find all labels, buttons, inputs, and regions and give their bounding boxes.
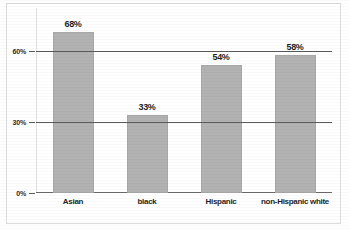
bar-value-label: 58% bbox=[286, 42, 303, 52]
gridline-30 bbox=[36, 122, 332, 123]
y-tick-label: 60% bbox=[13, 47, 26, 54]
bar bbox=[53, 32, 94, 193]
y-tick-mark-0 bbox=[29, 193, 35, 194]
bar bbox=[201, 65, 242, 193]
bar-group: 33% bbox=[127, 8, 168, 193]
bar bbox=[127, 115, 168, 193]
x-axis-category-label: black bbox=[138, 197, 157, 206]
x-axis-labels: AsianblackHispanicnon-Hispanic white bbox=[36, 197, 332, 217]
bar-series: 68%33%54%58% bbox=[36, 8, 332, 193]
bar-value-label: 33% bbox=[138, 102, 155, 112]
y-tick-mark-30 bbox=[29, 122, 35, 123]
x-axis-category-label: Hispanic bbox=[206, 197, 237, 206]
bar-group: 54% bbox=[201, 8, 242, 193]
y-tick-mark-60 bbox=[29, 51, 35, 52]
bar bbox=[275, 55, 316, 193]
plot-area: 68%33%54%58% 0%30%60% bbox=[36, 8, 332, 193]
x-axis-category-label: non-Hispanic white bbox=[261, 197, 329, 206]
bar-group: 68% bbox=[53, 8, 94, 193]
bar-chart-figure: 68%33%54%58% 0%30%60% AsianblackHispanic… bbox=[0, 0, 349, 229]
bar-group: 58% bbox=[275, 8, 316, 193]
bar-value-label: 54% bbox=[212, 52, 229, 62]
bar-value-label: 68% bbox=[64, 19, 81, 29]
x-axis-category-label: Asian bbox=[63, 197, 83, 206]
y-tick-label: 30% bbox=[13, 118, 26, 125]
y-tick-label: 0% bbox=[16, 190, 26, 197]
